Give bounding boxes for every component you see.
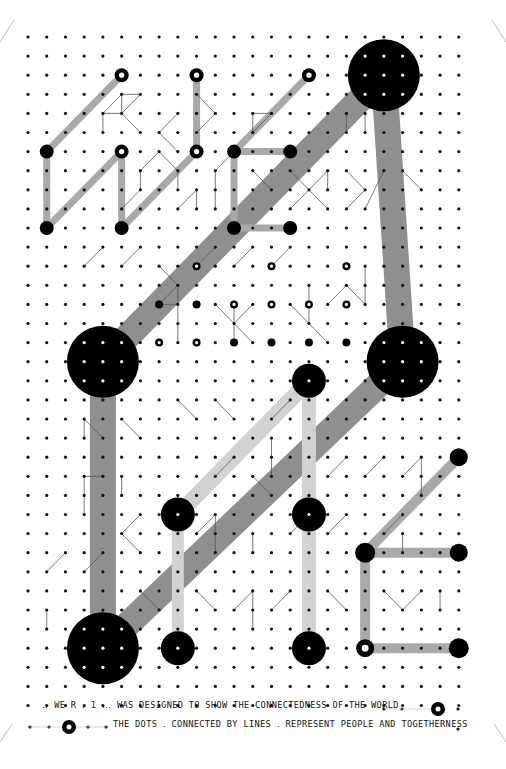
grid-dot — [45, 398, 48, 401]
grid-dot — [326, 207, 329, 210]
grid-dot — [251, 93, 254, 96]
grid-dot — [26, 112, 29, 115]
grid-dot — [289, 685, 292, 688]
grid-dot — [270, 131, 273, 134]
grid-dot — [420, 284, 423, 287]
e-node-corner — [355, 543, 375, 563]
grid-dot — [83, 456, 86, 459]
grid-dot — [214, 456, 217, 459]
grid-dot — [289, 131, 292, 134]
grid-dot — [289, 628, 292, 631]
grid-dot — [26, 360, 29, 363]
grid-dot — [420, 131, 423, 134]
grid-dot — [326, 35, 329, 38]
grid-dot — [420, 265, 423, 268]
grid-dot — [345, 169, 348, 172]
small-ring-6-center — [307, 303, 310, 306]
grid-dot — [176, 666, 179, 669]
grid-dot — [26, 551, 29, 554]
small-ring-5-center — [270, 303, 273, 306]
grid-dot — [214, 55, 217, 58]
grid-dot — [139, 685, 142, 688]
grid-dot — [364, 608, 367, 611]
grid-dot — [251, 398, 254, 401]
grid-dot — [232, 494, 235, 497]
grid-dot — [401, 437, 404, 440]
grid-dot — [45, 551, 48, 554]
grid-dot — [64, 628, 67, 631]
grid-dot — [120, 589, 123, 592]
grid-dot — [26, 55, 29, 58]
grid-dot — [83, 475, 86, 478]
inner-dot — [364, 55, 367, 58]
grid-dot — [401, 188, 404, 191]
grid-dot — [64, 417, 67, 420]
grid-dot — [83, 226, 86, 229]
grid-dot — [345, 628, 348, 631]
grid-dot — [270, 169, 273, 172]
grid-dot — [270, 226, 273, 229]
grid-dot — [26, 608, 29, 611]
grid-dot — [326, 666, 329, 669]
grid-dot — [364, 513, 367, 516]
small-dot-5 — [305, 339, 313, 347]
grid-dot — [45, 112, 48, 115]
grid-dot — [401, 417, 404, 420]
grid-dot — [251, 494, 254, 497]
grid-dot — [139, 303, 142, 306]
grid-dot — [64, 570, 67, 573]
grid-dot — [251, 169, 254, 172]
grid-dot — [45, 628, 48, 631]
grid-dot — [457, 169, 460, 172]
grid-dot — [45, 35, 48, 38]
grid-dot — [438, 513, 441, 516]
grid-dot — [364, 131, 367, 134]
grid-dot — [176, 437, 179, 440]
grid-dot — [214, 265, 217, 268]
grid-dot — [382, 303, 385, 306]
grid-dot — [26, 647, 29, 650]
grid-dot — [251, 417, 254, 420]
grid-dot — [307, 589, 310, 592]
grid-dot — [45, 93, 48, 96]
grid-dot — [64, 532, 67, 535]
grid-dot — [289, 246, 292, 249]
grid-dot — [214, 74, 217, 77]
grid-dot — [438, 207, 441, 210]
grid-dot — [457, 494, 460, 497]
grid-dot — [289, 360, 292, 363]
grid-dot — [457, 570, 460, 573]
grid-dot — [176, 150, 179, 153]
grid-dot — [251, 379, 254, 382]
grid-dot — [101, 494, 104, 497]
inner-dot — [307, 513, 310, 516]
grid-dot — [64, 169, 67, 172]
inner-dot — [120, 341, 123, 344]
inner-dot — [120, 666, 123, 669]
grid-dot — [345, 226, 348, 229]
grid-dot — [158, 93, 161, 96]
grid-dot — [176, 265, 179, 268]
grid-dot — [101, 456, 104, 459]
grid-dot — [251, 246, 254, 249]
grid-dot — [420, 322, 423, 325]
letter-segment — [122, 515, 141, 534]
grid-dot — [289, 265, 292, 268]
grid-dot — [270, 360, 273, 363]
grid-dot — [120, 398, 123, 401]
grid-dot — [45, 169, 48, 172]
grid-dot — [195, 322, 198, 325]
grid-dot — [120, 169, 123, 172]
grid-dot — [83, 169, 86, 172]
grid-dot — [214, 322, 217, 325]
grid-dot — [176, 456, 179, 459]
grid-dot — [83, 589, 86, 592]
grid-dot — [438, 112, 441, 115]
grid-dot — [120, 284, 123, 287]
grid-dot — [232, 74, 235, 77]
grid-dot — [420, 55, 423, 58]
grid-dot — [401, 608, 404, 611]
grid-dot — [401, 589, 404, 592]
inner-dot — [401, 74, 404, 77]
grid-dot — [326, 647, 329, 650]
